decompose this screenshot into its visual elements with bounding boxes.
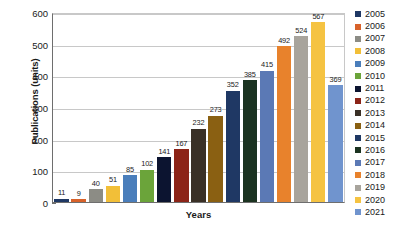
legend-item[interactable]: 2019 (355, 181, 411, 193)
legend-label: 2021 (365, 208, 385, 217)
bar[interactable] (71, 199, 85, 202)
bar-value-label: 141 (158, 147, 170, 156)
legend-swatch-icon (355, 197, 361, 203)
legend-swatch-icon (355, 73, 361, 79)
y-tick-label: 100 (22, 166, 48, 177)
bar-value-label: 167 (175, 139, 187, 148)
legend-item[interactable]: 2012 (355, 95, 411, 107)
legend-label: 2010 (365, 72, 385, 81)
legend-item[interactable]: 2015 (355, 132, 411, 144)
legend-label: 2009 (365, 59, 385, 68)
legend-swatch-icon (355, 36, 361, 42)
legend-item[interactable]: 2021 (355, 206, 411, 218)
bar-slot: 9 (70, 14, 87, 202)
legend-label: 2016 (365, 146, 385, 155)
legend-item[interactable]: 2014 (355, 120, 411, 132)
bar[interactable] (140, 170, 154, 202)
legend-swatch-icon (355, 86, 361, 92)
bar[interactable] (89, 189, 103, 202)
bar[interactable] (174, 149, 188, 202)
bar-value-label: 352 (227, 80, 239, 89)
legend-item[interactable]: 2008 (355, 45, 411, 57)
bar[interactable] (260, 71, 274, 202)
legend-swatch-icon (355, 110, 361, 116)
legend-label: 2014 (365, 121, 385, 130)
bar-value-label: 11 (58, 188, 65, 197)
legend-label: 2017 (365, 158, 385, 167)
legend-item[interactable]: 2007 (355, 33, 411, 45)
legend-label: 2007 (365, 34, 385, 43)
bar-value-label: 492 (278, 36, 290, 45)
bar-slot: 40 (87, 14, 104, 202)
bar-value-label: 369 (330, 75, 342, 84)
bar-value-label: 51 (109, 175, 117, 184)
legend-item[interactable]: 2017 (355, 157, 411, 169)
legend-item[interactable]: 2020 (355, 194, 411, 206)
legend-label: 2008 (365, 47, 385, 56)
legend-item[interactable]: 2005 (355, 8, 411, 20)
bar-slot: 352 (224, 14, 241, 202)
bar[interactable] (328, 85, 342, 202)
bar-value-label: 9 (77, 189, 81, 198)
bar[interactable] (123, 175, 137, 202)
legend-label: 2019 (365, 183, 385, 192)
bar[interactable] (243, 80, 257, 202)
legend-item[interactable]: 2016 (355, 144, 411, 156)
bar-value-label: 567 (312, 12, 324, 21)
bar-slot: 51 (104, 14, 121, 202)
bar[interactable] (226, 91, 240, 202)
bar[interactable] (54, 199, 68, 202)
legend-swatch-icon (355, 172, 361, 178)
x-axis-title: Years (52, 209, 345, 220)
bar-value-label: 273 (210, 105, 222, 114)
legend-label: 2006 (365, 22, 385, 31)
legend-swatch-icon (355, 123, 361, 129)
legend-swatch-icon (355, 11, 361, 17)
bar[interactable] (208, 116, 222, 202)
y-tick-label: 300 (22, 103, 48, 114)
legend-label: 2011 (365, 84, 384, 93)
legend-label: 2013 (365, 109, 385, 118)
bar-slot: 167 (173, 14, 190, 202)
bar[interactable] (277, 46, 291, 202)
legend-label: 2018 (365, 171, 385, 180)
bar-value-label: 415 (261, 60, 273, 69)
y-tick-label: 500 (22, 39, 48, 50)
bar-slot: 273 (207, 14, 224, 202)
legend-label: 2015 (365, 134, 385, 143)
legend-item[interactable]: 2009 (355, 58, 411, 70)
y-tick-label: 400 (22, 71, 48, 82)
legend-swatch-icon (355, 147, 361, 153)
bar-value-label: 524 (295, 26, 307, 35)
legend-swatch-icon (355, 135, 361, 141)
legend: 2005200620072008200920102011201220132014… (355, 8, 411, 219)
legend-item[interactable]: 2011 (355, 82, 411, 94)
bar[interactable] (311, 22, 325, 202)
legend-item[interactable]: 2013 (355, 107, 411, 119)
bar[interactable] (294, 36, 308, 202)
bar-value-label: 85 (126, 165, 134, 174)
bar-slot: 385 (241, 14, 258, 202)
bar[interactable] (106, 186, 120, 202)
bar-value-label: 102 (141, 159, 153, 168)
legend-item[interactable]: 2018 (355, 169, 411, 181)
bar-slot: 369 (327, 14, 344, 202)
legend-swatch-icon (355, 185, 361, 191)
legend-item[interactable]: 2006 (355, 20, 411, 32)
legend-label: 2005 (365, 10, 385, 19)
bar-slot: 102 (139, 14, 156, 202)
legend-item[interactable]: 2010 (355, 70, 411, 82)
plot-area: 1194051851021411672322733523854154925245… (52, 13, 345, 203)
bar[interactable] (191, 129, 205, 202)
y-tick-mark (52, 203, 56, 204)
bar-slot: 524 (293, 14, 310, 202)
y-tick-label: 0 (22, 198, 48, 209)
bar[interactable] (157, 157, 171, 202)
bar-chart: Publications (units) 0100200300400500600… (0, 0, 411, 229)
bar-slot: 492 (276, 14, 293, 202)
bar-slot: 415 (258, 14, 275, 202)
bar-slot: 232 (190, 14, 207, 202)
bar-series: 1194051851021411672322733523854154925245… (53, 14, 344, 202)
y-tick-label: 200 (22, 134, 48, 145)
y-axis-tick-labels: 0100200300400500600 (22, 0, 48, 229)
